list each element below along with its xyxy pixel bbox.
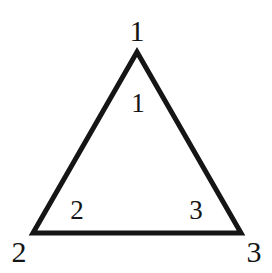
interior-label-3: 3 bbox=[189, 197, 203, 224]
vertex-label-2: 2 bbox=[12, 237, 27, 267]
interior-label-2: 2 bbox=[70, 197, 84, 224]
vertex-label-3: 3 bbox=[247, 237, 262, 267]
interior-label-1: 1 bbox=[131, 90, 145, 117]
triangle-shape bbox=[33, 52, 241, 233]
vertex-label-1: 1 bbox=[130, 16, 145, 46]
triangle-figure: 1 2 3 1 2 3 bbox=[0, 0, 272, 273]
